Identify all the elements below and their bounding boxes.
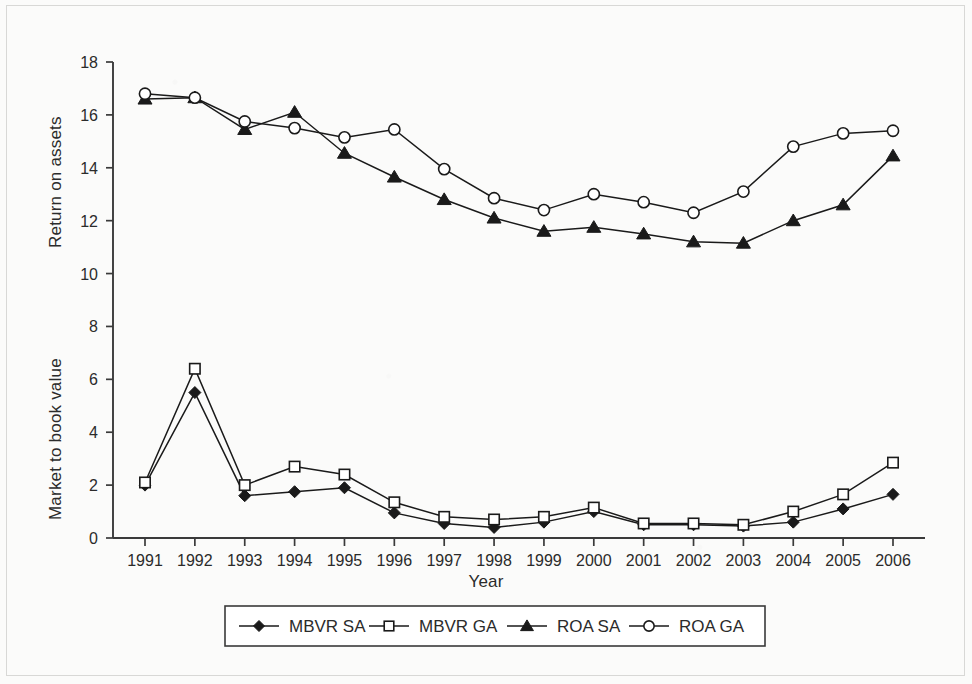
open-circle-marker xyxy=(389,124,400,135)
open-circle-marker xyxy=(688,207,699,218)
filled-diamond-marker xyxy=(887,488,899,500)
open-square-marker xyxy=(539,512,549,522)
open-square-marker xyxy=(788,506,798,516)
series-layer xyxy=(138,88,900,533)
y-tick-label: 16 xyxy=(80,107,98,124)
series-roa-ga xyxy=(139,88,898,218)
x-tick-label: 1992 xyxy=(177,552,213,569)
filled-diamond-marker xyxy=(787,516,799,528)
legend-label: MBVR SA xyxy=(289,617,366,636)
x-tick-label: 1999 xyxy=(526,552,562,569)
x-tick-label: 1994 xyxy=(277,552,313,569)
x-tick-label: 1995 xyxy=(327,552,363,569)
filled-diamond-marker xyxy=(388,507,400,519)
series-line xyxy=(145,98,893,243)
filled-triangle-marker xyxy=(288,106,302,118)
filled-triangle-marker xyxy=(487,211,501,223)
filled-diamond-marker xyxy=(189,387,201,399)
x-tick-label: 2004 xyxy=(775,552,811,569)
open-square-marker xyxy=(389,497,399,507)
open-square-marker xyxy=(240,480,250,490)
chart-legend: MBVR SAMBVR GAROA SAROA GA xyxy=(225,606,765,646)
filled-triangle-marker xyxy=(437,193,451,205)
open-circle-marker xyxy=(838,128,849,139)
series-line xyxy=(145,393,893,528)
x-tick-label: 2005 xyxy=(825,552,861,569)
open-square-marker xyxy=(888,457,898,467)
open-square-marker xyxy=(638,518,648,528)
x-tick-label: 2006 xyxy=(875,552,911,569)
legend-label: ROA GA xyxy=(679,617,745,636)
series-line xyxy=(145,369,893,525)
y-axis-title-lower: Market to book value xyxy=(46,358,66,520)
filled-diamond-marker xyxy=(338,482,350,494)
x-tick-label: 2002 xyxy=(676,552,712,569)
x-tick-label: 1998 xyxy=(476,552,512,569)
x-tick-label: 1997 xyxy=(426,552,462,569)
open-square-marker xyxy=(289,461,299,471)
filled-diamond-marker xyxy=(239,490,251,502)
series-roa-sa xyxy=(138,91,900,248)
x-tick-label: 2003 xyxy=(726,552,762,569)
filled-diamond-marker xyxy=(289,486,301,498)
y-tick-label: 18 xyxy=(80,54,98,71)
open-circle-marker xyxy=(644,621,654,631)
open-circle-marker xyxy=(289,123,300,134)
filled-triangle-marker xyxy=(886,149,900,161)
y-tick-label: 0 xyxy=(89,530,98,547)
series-line xyxy=(145,94,893,213)
legend-label: ROA SA xyxy=(557,617,621,636)
x-tick-label: 2000 xyxy=(576,552,612,569)
y-tick-label: 14 xyxy=(80,160,98,177)
series-mbvr-sa xyxy=(139,387,899,534)
y-tick-label: 12 xyxy=(80,213,98,230)
series-mbvr-ga xyxy=(140,364,898,530)
open-square-marker xyxy=(838,489,848,499)
y-tick-label: 10 xyxy=(80,266,98,283)
y-tick-label: 2 xyxy=(89,477,98,494)
open-circle-marker xyxy=(488,193,499,204)
filled-triangle-marker xyxy=(387,170,401,182)
open-square-marker xyxy=(339,469,349,479)
open-circle-marker xyxy=(588,189,599,200)
open-square-marker xyxy=(190,364,200,374)
y-tick-label: 6 xyxy=(89,371,98,388)
x-axis-ticks: 1991199219931994199519961997199819992000… xyxy=(127,538,911,569)
open-circle-marker xyxy=(189,92,200,103)
open-circle-marker xyxy=(788,141,799,152)
open-square-marker xyxy=(140,477,150,487)
open-square-marker xyxy=(439,512,449,522)
open-circle-marker xyxy=(638,197,649,208)
open-circle-marker xyxy=(538,204,549,215)
x-tick-label: 2001 xyxy=(626,552,662,569)
axes xyxy=(113,62,925,538)
y-axis-title-upper: Return on assets xyxy=(46,116,66,248)
filled-triangle-marker xyxy=(587,221,601,233)
y-axis-ticks: 024681012141618 xyxy=(80,54,113,547)
x-tick-label: 1991 xyxy=(127,552,163,569)
x-tick-label: 1993 xyxy=(227,552,263,569)
open-square-marker xyxy=(489,514,499,524)
x-tick-label: 1996 xyxy=(377,552,413,569)
filled-diamond-marker xyxy=(837,503,849,515)
open-circle-marker xyxy=(239,116,250,127)
legend-label: MBVR GA xyxy=(419,617,498,636)
open-square-marker xyxy=(738,520,748,530)
open-square-marker xyxy=(589,502,599,512)
open-circle-marker xyxy=(738,186,749,197)
open-square-marker xyxy=(384,621,394,631)
open-circle-marker xyxy=(339,132,350,143)
y-tick-label: 4 xyxy=(89,424,98,441)
x-axis-title: Year xyxy=(0,572,972,592)
chart-figure: 024681012141618 199119921993199419951996… xyxy=(0,0,972,684)
open-square-marker xyxy=(688,518,698,528)
open-circle-marker xyxy=(439,164,450,175)
y-tick-label: 8 xyxy=(89,318,98,335)
open-circle-marker xyxy=(139,88,150,99)
open-circle-marker xyxy=(887,125,898,136)
